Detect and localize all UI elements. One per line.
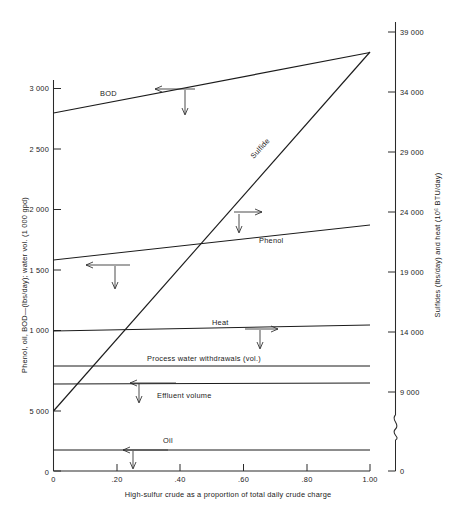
right-tick-34000: 34 000 — [400, 88, 424, 97]
chart-svg: 3 000 2 500 2 000 1 500 1 000 5 000 0 Ph… — [0, 0, 450, 517]
series-phenol: Phenol — [54, 225, 371, 289]
x-axis-title: High-sulfur crude as a proportion of tot… — [125, 490, 332, 499]
series-label-effluent-volume: Effluent volume — [157, 391, 212, 400]
left-y-axis — [54, 80, 62, 471]
right-tick-19000: 19 000 — [400, 268, 424, 277]
left-tick-1500: 1 500 — [30, 266, 50, 275]
right-tick-14000: 14 000 — [400, 328, 424, 337]
x-tick-0: 0 — [51, 475, 55, 484]
right-tick-24000: 24 000 — [400, 208, 424, 217]
left-tick-500: 5 000 — [30, 407, 50, 416]
series-label-oil: Oil — [163, 436, 173, 445]
series-heat: Heat — [54, 318, 371, 349]
x-tick-100: 1.00 — [362, 475, 377, 484]
chart-figure: 3 000 2 500 2 000 1 500 1 000 5 000 0 Ph… — [0, 0, 450, 517]
series-effluent-volume: Effluent volume — [54, 380, 371, 403]
right-tick-0: 0 — [400, 467, 404, 476]
left-axis-title: Phenol, oil, BOD—(lbs/day); water vol. (… — [20, 197, 29, 373]
series-label-sulfide: Sulfide — [249, 136, 272, 160]
right-tick-29000: 29 000 — [400, 148, 424, 157]
left-y-tick-labels: 3 000 2 500 2 000 1 500 1 000 5 000 0 — [30, 84, 50, 476]
series-label-bod: BOD — [100, 89, 117, 98]
left-tick-3000: 3 000 — [30, 84, 50, 93]
x-tick-20: .20 — [112, 475, 123, 484]
left-tick-1000: 1 000 — [30, 326, 50, 335]
x-tick-60: .60 — [238, 475, 249, 484]
series-label-process-water: Process water withdrawals (vol.) — [147, 354, 261, 363]
x-axis — [54, 464, 371, 471]
right-tick-39000: 39 000 — [400, 28, 424, 37]
axis-break-symbol — [394, 415, 397, 440]
series-oil: Oil — [54, 436, 371, 469]
right-y-axis — [388, 22, 397, 471]
series-process-water: Process water withdrawals (vol.) — [54, 354, 371, 366]
x-tick-80: .80 — [302, 475, 313, 484]
right-y-tick-labels: 39 000 34 000 29 000 24 000 19 000 14 00… — [400, 28, 424, 476]
x-tick-labels: 0 .20 .40 .60 .80 1.00 — [51, 475, 377, 484]
left-tick-2500: 2 500 — [30, 145, 50, 154]
right-tick-9000: 9 000 — [400, 388, 420, 397]
x-tick-40: .40 — [175, 475, 186, 484]
series-label-phenol: Phenol — [259, 236, 284, 245]
right-axis-title: Sulfides (lbs/day) and heat (10⁶ BTU/day… — [433, 173, 442, 318]
left-tick-0: 0 — [45, 468, 49, 477]
series-label-heat: Heat — [212, 318, 229, 327]
left-tick-2000: 2 000 — [30, 205, 50, 214]
